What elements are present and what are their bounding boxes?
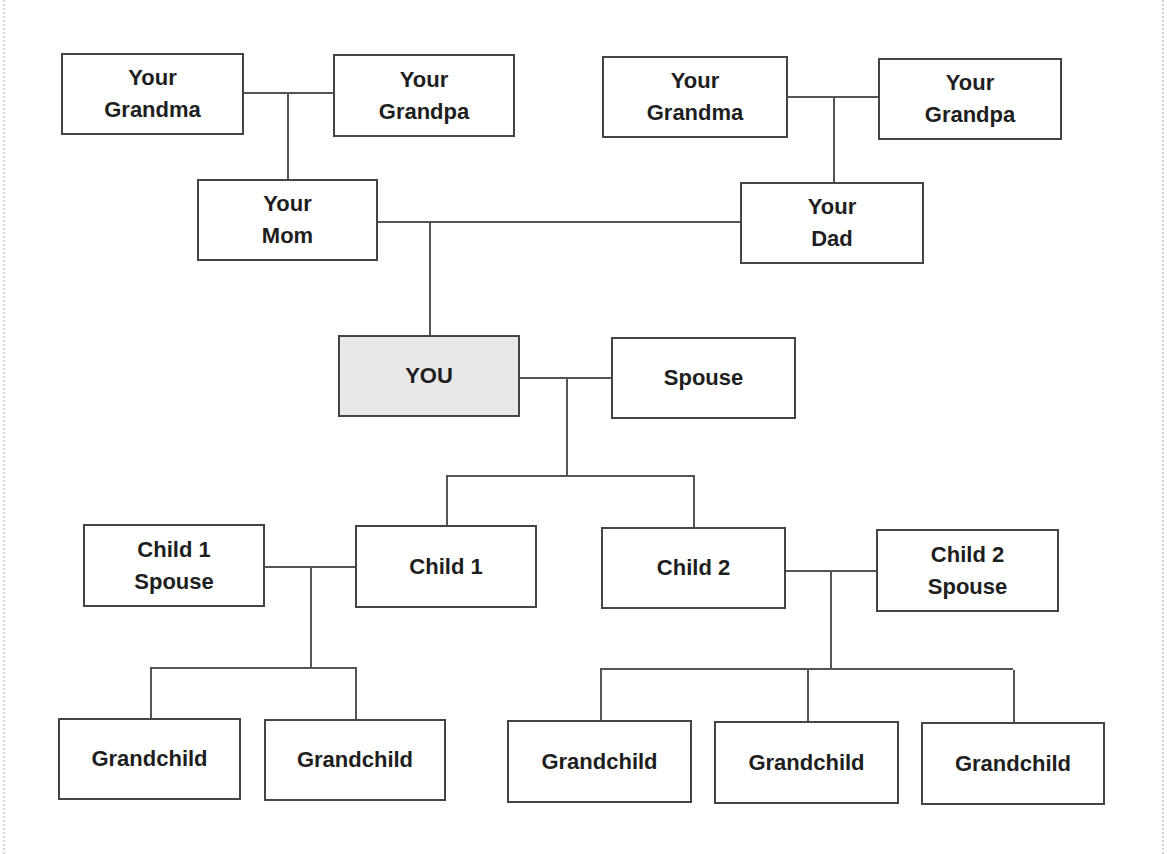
box-label: Spouse: [664, 362, 743, 394]
box-label: Grandchild: [955, 748, 1071, 780]
box-label: Grandchild: [541, 746, 657, 778]
box-label: Child 2: [657, 552, 730, 584]
box-label: Child 1: [137, 534, 210, 566]
bracket-to-grandchild1-line: [150, 667, 152, 718]
box-label: Dad: [811, 223, 853, 255]
maternal-grandparents-to-mom-line: [287, 92, 289, 179]
box-label: Grandma: [104, 94, 201, 126]
bracket-to-child2-line: [693, 475, 695, 527]
left-page-edge: [3, 0, 5, 854]
bracket-to-grandchild4-line: [807, 669, 809, 721]
parents-to-you-line: [429, 221, 431, 335]
dad-box: Your Dad: [740, 182, 924, 264]
box-label: Your: [400, 64, 448, 96]
grandchild-box: Grandchild: [507, 720, 692, 803]
bracket-to-child1-line: [446, 475, 448, 525]
box-label: Grandchild: [91, 743, 207, 775]
child1-to-grandchildren-line: [310, 566, 312, 667]
child2-box: Child 2: [601, 527, 786, 609]
paternal-grandpa-box: Your Grandpa: [878, 58, 1062, 140]
grandchild-box: Grandchild: [714, 721, 899, 804]
box-label: Your: [263, 188, 311, 220]
child1-spouse-box: Child 1 Spouse: [83, 524, 265, 607]
child2-to-grandchildren-line: [830, 570, 832, 669]
bracket-to-grandchild2-line: [355, 667, 357, 719]
box-label: Your: [128, 62, 176, 94]
paternal-grandma-box: Your Grandma: [602, 56, 788, 138]
box-label: Mom: [262, 220, 313, 252]
you-to-children-line: [566, 377, 568, 475]
paternal-grandparents-to-dad-line: [833, 96, 835, 182]
mom-box: Your Mom: [197, 179, 378, 261]
bracket-to-grandchild3-line: [600, 668, 602, 720]
maternal-grandpa-box: Your Grandpa: [333, 54, 515, 137]
box-label: Spouse: [134, 566, 213, 598]
right-page-edge: [1162, 0, 1164, 854]
box-label: Spouse: [928, 571, 1007, 603]
box-label: Grandma: [647, 97, 744, 129]
box-label: Your: [808, 191, 856, 223]
bracket-to-grandchild5-line: [1013, 670, 1015, 722]
grandchild-box: Grandchild: [58, 718, 241, 800]
box-label: Grandchild: [748, 747, 864, 779]
box-label: Child 1: [409, 551, 482, 583]
parents-connector: [378, 221, 740, 223]
maternal-grandparents-connector: [244, 92, 333, 94]
box-label: YOU: [405, 360, 453, 392]
box-label: Grandchild: [297, 744, 413, 776]
box-label: Child 2: [931, 539, 1004, 571]
box-label: Grandpa: [925, 99, 1015, 131]
children-bracket: [446, 475, 693, 477]
child1-grandchildren-bracket: [150, 667, 355, 669]
maternal-grandma-box: Your Grandma: [61, 53, 244, 135]
box-label: Your: [671, 65, 719, 97]
spouse-box: Spouse: [611, 337, 796, 419]
you-box: YOU: [338, 335, 520, 417]
box-label: Your: [946, 67, 994, 99]
child2-spouse-box: Child 2 Spouse: [876, 529, 1059, 612]
box-label: Grandpa: [379, 96, 469, 128]
grandchild-box: Grandchild: [921, 722, 1105, 805]
child1-box: Child 1: [355, 525, 537, 608]
grandchild-box: Grandchild: [264, 719, 446, 801]
